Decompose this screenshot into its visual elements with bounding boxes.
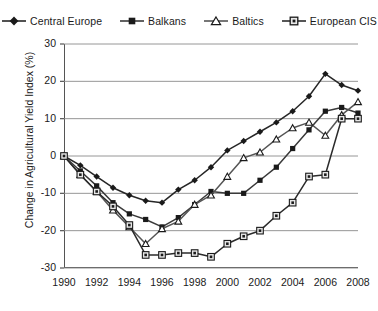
chart-canvas bbox=[0, 0, 378, 311]
agricultural-yield-line-chart: Central Europe Balkans Baltics European … bbox=[0, 0, 378, 311]
series-line-central-europe bbox=[64, 74, 358, 203]
series-markers-central-europe bbox=[61, 71, 361, 206]
series-markers-european-cis bbox=[61, 115, 362, 260]
x-tick-label: 2008 bbox=[338, 276, 378, 288]
series-line-european-cis bbox=[64, 119, 358, 257]
x-axis-tick-labels: 1990199219941996199820002002200420062008 bbox=[0, 272, 378, 290]
